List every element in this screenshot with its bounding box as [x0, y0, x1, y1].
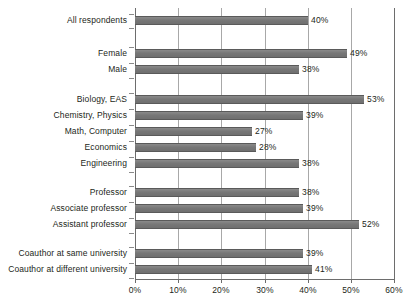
category-label-wrap: Coauthor at different university: [0, 264, 127, 275]
bar: [135, 159, 299, 168]
bar: [135, 143, 256, 152]
category-label-wrap: Coauthor at same university: [0, 248, 127, 259]
bar: [135, 16, 308, 25]
category-label: Assistant professor: [0, 219, 127, 229]
bar: [135, 49, 347, 58]
category-label-wrap: Math, Computer: [0, 126, 127, 137]
y-axis-tick: [129, 63, 134, 64]
x-tick-10: [178, 279, 179, 283]
bar-value-label: 39%: [306, 203, 324, 213]
category-label: Coauthor at different university: [0, 264, 127, 274]
bar: [135, 111, 303, 120]
horizontal-bar-chart: 0%10%20%30%40%50%60%40%All respondents49…: [0, 0, 414, 306]
x-tick-0: [135, 279, 136, 283]
category-label: Engineering: [0, 158, 127, 168]
bar: [135, 95, 364, 104]
category-label-wrap: Male: [0, 64, 127, 75]
bar-value-label: 40%: [311, 15, 329, 25]
category-label: Math, Computer: [0, 126, 127, 136]
y-axis-tick: [129, 157, 134, 158]
bar: [135, 127, 252, 136]
bar-value-label: 53%: [367, 94, 385, 104]
bar: [135, 204, 303, 213]
y-axis-tick: [129, 218, 134, 219]
category-label-wrap: Biology, EAS: [0, 94, 127, 105]
y-axis-tick: [129, 247, 134, 248]
y-axis-tick: [129, 263, 134, 264]
y-axis-tick: [129, 186, 134, 187]
x-tick-40: [308, 279, 309, 283]
x-tick-50: [351, 279, 352, 283]
y-axis-tick: [129, 233, 134, 234]
y-axis-tick: [129, 172, 134, 173]
category-label: Professor: [0, 187, 127, 197]
x-tick-label: 40%: [299, 285, 317, 295]
bar: [135, 220, 359, 229]
y-axis-tick: [129, 109, 134, 110]
bar-value-label: 49%: [350, 48, 368, 58]
category-label: Biology, EAS: [0, 94, 127, 104]
category-label-wrap: Economics: [0, 142, 127, 153]
y-axis-tick: [129, 14, 134, 15]
category-label-wrap: Chemistry, Physics: [0, 110, 127, 121]
category-label: Female: [0, 48, 127, 58]
x-tick-label: 10%: [169, 285, 187, 295]
bar: [135, 188, 299, 197]
x-tick-label: 30%: [256, 285, 274, 295]
category-label-wrap: Professor: [0, 187, 127, 198]
category-label: All respondents: [0, 15, 127, 25]
x-tick-label: 0%: [129, 285, 142, 295]
bar-value-label: 27%: [255, 126, 273, 136]
category-label-wrap: All respondents: [0, 15, 127, 26]
y-axis-tick: [129, 78, 134, 79]
x-tick-label: 50%: [342, 285, 360, 295]
x-tick-label: 20%: [212, 285, 230, 295]
bar-value-label: 38%: [302, 158, 320, 168]
y-axis-tick: [129, 278, 134, 279]
category-label-wrap: Female: [0, 48, 127, 59]
bar-value-label: 52%: [362, 219, 380, 229]
bar: [135, 265, 312, 274]
category-label: Coauthor at same university: [0, 248, 127, 258]
category-label-wrap: Assistant professor: [0, 219, 127, 230]
y-axis-tick: [129, 93, 134, 94]
y-axis-tick: [129, 141, 134, 142]
category-label: Chemistry, Physics: [0, 110, 127, 120]
bar-value-label: 39%: [306, 248, 324, 258]
x-tick-label: 60%: [385, 285, 403, 295]
bar: [135, 65, 299, 74]
y-axis-tick: [129, 28, 134, 29]
bar-value-label: 41%: [315, 264, 333, 274]
y-axis-tick: [129, 202, 134, 203]
x-tick-60: [394, 279, 395, 283]
category-label: Associate professor: [0, 203, 127, 213]
category-label-wrap: Associate professor: [0, 203, 127, 214]
category-label-wrap: Engineering: [0, 158, 127, 169]
gridline-60: [394, 8, 395, 279]
bar-value-label: 28%: [259, 142, 277, 152]
bar-value-label: 38%: [302, 187, 320, 197]
bar-value-label: 39%: [306, 110, 324, 120]
bar-value-label: 38%: [302, 64, 320, 74]
x-tick-30: [265, 279, 266, 283]
category-label: Economics: [0, 142, 127, 152]
category-label: Male: [0, 64, 127, 74]
bar: [135, 249, 303, 258]
y-axis-tick: [129, 125, 134, 126]
y-axis-tick: [129, 47, 134, 48]
x-tick-20: [221, 279, 222, 283]
